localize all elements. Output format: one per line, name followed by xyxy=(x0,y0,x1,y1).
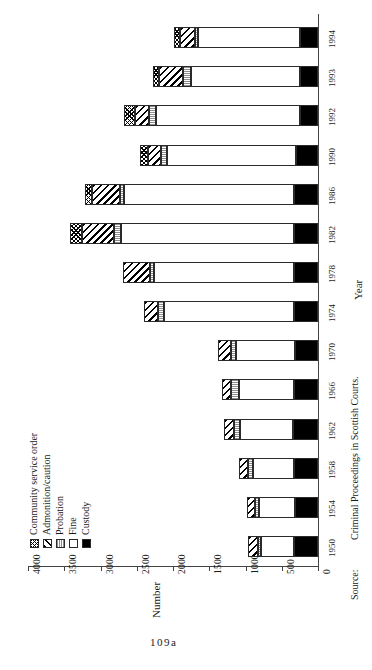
bar-1974 xyxy=(28,301,318,322)
bar-segment-admonition-caution xyxy=(148,145,162,166)
bar-segment-community-service-order xyxy=(153,66,160,87)
legend-swatch-fine xyxy=(69,539,78,548)
legend-swatch-probation xyxy=(56,539,65,548)
bar-1994 xyxy=(28,27,318,48)
bar-segment-admonition-caution xyxy=(247,497,255,518)
value-axis-tick xyxy=(64,566,65,571)
bar-segment-fine xyxy=(154,262,294,283)
source-label: Source: xyxy=(349,569,360,600)
source-text: Criminal Proceedings in Scottish Courts. xyxy=(349,376,360,540)
bar-segment-probation xyxy=(149,105,156,126)
bar-segment-admonition-caution xyxy=(224,419,233,440)
bar-segment-admonition-caution xyxy=(248,536,257,557)
chart-figure: 4000350030002500200015001000500019501954… xyxy=(0,0,372,670)
value-axis-tick-label: 3500 xyxy=(68,554,78,574)
bar-segment-fine xyxy=(198,27,300,48)
bar-segment-admonition-caution xyxy=(144,301,158,322)
bar-segment-custody xyxy=(295,340,318,361)
value-axis-tick-label: 1000 xyxy=(250,554,260,574)
bar-segment-community-service-order xyxy=(124,105,135,126)
category-axis-label-1990: 1990 xyxy=(327,148,337,166)
category-axis-title: Year xyxy=(352,280,364,300)
bar-segment-fine xyxy=(191,66,300,87)
value-axis-tick xyxy=(137,566,138,571)
page-number: 109a xyxy=(150,636,177,648)
category-axis-label-1986: 1986 xyxy=(327,187,337,205)
bar-segment-community-service-order xyxy=(85,184,92,205)
bar-segment-probation xyxy=(258,536,261,557)
bar-segment-probation xyxy=(248,458,254,479)
bar-segment-custody xyxy=(294,223,318,244)
legend-label: Fine xyxy=(67,517,78,535)
bar-segment-probation xyxy=(183,66,191,87)
bar-segment-probation xyxy=(255,497,259,518)
bar-1992 xyxy=(28,105,318,126)
bar-segment-custody xyxy=(294,379,318,400)
bar-segment-admonition-caution xyxy=(159,66,183,87)
bar-segment-fine xyxy=(124,184,294,205)
category-axis-label-1950: 1950 xyxy=(327,539,337,557)
bar-1954 xyxy=(28,497,318,518)
category-axis-label-1954: 1954 xyxy=(327,500,337,518)
bar-1982 xyxy=(28,223,318,244)
bar-segment-custody xyxy=(294,184,318,205)
bar-segment-fine xyxy=(240,419,293,440)
category-axis-label-1966: 1966 xyxy=(327,382,337,400)
bar-1962 xyxy=(28,419,318,440)
bar-segment-probation xyxy=(195,27,199,48)
bar-1970 xyxy=(28,340,318,361)
bar-segment-custody xyxy=(294,262,318,283)
legend-label: Admonition/caution xyxy=(41,454,52,535)
category-axis-label-1994: 1994 xyxy=(327,30,337,48)
bar-segment-fine xyxy=(253,458,294,479)
bar-segment-fine xyxy=(259,497,295,518)
legend-item-community-service-order: Community service order xyxy=(28,433,39,548)
bar-segment-fine xyxy=(261,536,294,557)
bar-segment-custody xyxy=(294,536,318,557)
value-axis-tick-label: 4000 xyxy=(32,554,42,574)
bar-segment-probation xyxy=(158,301,165,322)
bar-1986 xyxy=(28,184,318,205)
legend-item-admonition-caution: Admonition/caution xyxy=(41,454,52,548)
bar-segment-probation xyxy=(120,184,124,205)
bar-segment-community-service-order xyxy=(140,145,148,166)
bar-segment-admonition-caution xyxy=(135,105,150,126)
value-axis-tick-label: 0 xyxy=(322,569,332,574)
bar-1958 xyxy=(28,458,318,479)
bar-segment-admonition-caution xyxy=(92,184,120,205)
legend-label: Probation xyxy=(54,496,65,535)
bar-segment-custody xyxy=(293,419,318,440)
category-axis-label-1958: 1958 xyxy=(327,461,337,479)
category-axis-label-1970: 1970 xyxy=(327,343,337,361)
bar-segment-custody xyxy=(296,145,318,166)
bar-segment-community-service-order xyxy=(70,223,82,244)
bar-segment-fine xyxy=(167,145,296,166)
bar-segment-custody xyxy=(295,497,318,518)
bar-segment-admonition-caution xyxy=(239,458,248,479)
value-axis-tick xyxy=(28,566,29,571)
bar-segment-admonition-caution xyxy=(123,262,150,283)
bar-1993 xyxy=(28,66,318,87)
bar-segment-fine xyxy=(164,301,294,322)
bar-segment-custody xyxy=(300,27,318,48)
bar-segment-fine xyxy=(156,105,300,126)
legend-item-fine: Fine xyxy=(67,517,78,548)
bar-segment-fine xyxy=(121,223,294,244)
bar-segment-custody xyxy=(294,458,318,479)
value-axis-tick-label: 2500 xyxy=(141,554,151,574)
legend-swatch-admonition-caution xyxy=(43,539,52,548)
bar-segment-custody xyxy=(294,301,318,322)
value-axis-tick-label: 2000 xyxy=(177,554,187,574)
bar-segment-custody xyxy=(300,105,318,126)
legend-label: Custody xyxy=(80,502,91,535)
bar-segment-community-service-order xyxy=(174,27,180,48)
legend-item-probation: Probation xyxy=(54,496,65,548)
value-axis-tick-label: 3000 xyxy=(105,554,115,574)
bar-segment-fine xyxy=(239,379,294,400)
bar-1966 xyxy=(28,379,318,400)
bar-segment-probation xyxy=(114,223,121,244)
bar-segment-probation xyxy=(161,145,167,166)
bar-segment-probation xyxy=(150,262,154,283)
category-axis-label-1962: 1962 xyxy=(327,422,337,440)
bar-segment-admonition-caution xyxy=(222,379,231,400)
